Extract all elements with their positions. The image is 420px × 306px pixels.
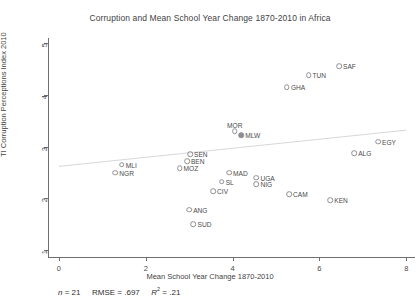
data-point-uga [254,175,260,181]
data-point-tun [306,72,312,78]
scatter-plot-figure: Corruption and Mean School Year Change 1… [0,0,420,306]
x-tick-6 [319,257,320,261]
data-point-ken [328,197,334,203]
chart-title: Corruption and Mean School Year Change 1… [0,13,420,23]
plot-area: 12345 02468 SAFTUNGHAMORMLWEGYALGSENBENM… [48,38,415,258]
footnote-n-value: = 21 [65,288,81,297]
y-tick-label-5: 5 [40,43,49,47]
data-point-sud [191,222,197,228]
x-axis-label: Mean School Year Change 1870-2010 [0,272,420,281]
y-tick-label-4: 4 [40,95,49,99]
y-tick-label-3: 3 [40,147,49,151]
data-point-saf [336,64,342,70]
data-point-ngr [113,170,119,176]
footnote-r2-exponent: 2 [157,286,160,292]
chart-footnote: n = 21 RMSE = .697 R2 = .21 [58,286,180,297]
data-point-label-mlw: MLW [245,132,260,139]
data-point-label-ken: KEN [334,197,348,204]
y-tick-label-1: 1 [40,250,49,254]
x-tick-8 [406,257,407,261]
data-point-mor [232,128,238,134]
data-point-label-moz: MOZ [184,165,199,172]
data-point-sl [219,179,225,185]
data-point-label-mli: MLI [126,161,137,168]
x-tick-0 [59,257,60,261]
data-point-label-mad: MAD [233,169,248,176]
data-point-label-cam: CAM [293,191,308,198]
footnote-rmse-value: = .697 [117,288,139,297]
footnote-n-label: n [58,288,62,297]
data-point-label-egy: EGY [382,138,396,145]
footnote-rmse-label: RMSE [92,288,115,297]
data-point-moz [177,166,183,172]
data-point-label-saf: SAF [343,63,356,70]
y-axis-label: TI Corruption Perceptions Index 2010 [0,32,8,157]
data-point-sen [187,152,193,158]
data-point-label-tun: TUN [313,72,327,79]
data-point-ben [184,158,190,164]
data-point-label-sud: SUD [197,221,211,228]
data-point-label-sl: SL [226,178,234,185]
regression-line [48,38,415,258]
data-point-label-alg: ALG [358,149,371,156]
data-point-label-nig: NIG [260,180,272,187]
data-point-nig [254,181,260,187]
data-point-cam [286,192,292,198]
data-point-gha [284,84,290,90]
x-tick-2 [146,257,147,261]
data-point-ang [186,207,192,213]
data-point-mli [119,162,125,168]
footnote-r2-value: = .21 [162,288,180,297]
data-point-egy [375,139,381,145]
data-point-label-gha: GHA [291,84,305,91]
data-point-label-mor: MOR [227,122,242,129]
data-point-civ [210,188,216,194]
data-point-label-civ: CIV [217,188,228,195]
data-point-label-ben: BEN [191,158,205,165]
data-point-label-ang: ANG [193,206,207,213]
x-tick-4 [233,257,234,261]
data-point-mad [226,170,232,176]
y-tick-label-2: 2 [40,198,49,202]
data-point-alg [351,150,357,156]
data-point-mlw [238,133,244,139]
data-point-label-ngr: NGR [119,169,134,176]
